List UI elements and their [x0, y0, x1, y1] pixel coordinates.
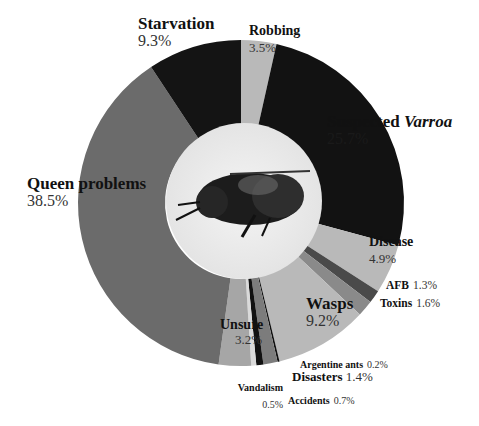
label-starvation: Starvation9.3% — [138, 15, 215, 50]
donut-chart — [0, 0, 479, 426]
label-wasps: Wasps9.2% — [306, 295, 353, 330]
bee-photo — [166, 123, 322, 279]
label-unsure: Unsure3.2% — [220, 318, 263, 346]
label-toxins: Toxins 1.6% — [380, 294, 440, 311]
label-queen-problems: Queen problems38.5% — [27, 175, 146, 210]
label-vandalism: Vandalism0.5% — [228, 378, 283, 412]
label-afb: AFB 1.3% — [386, 276, 437, 293]
label-accidents: Accidents 0.7% — [288, 391, 355, 408]
label-robbing: Robbing3.5% — [249, 22, 300, 56]
label-disasters: Disasters 1.4% — [292, 370, 373, 384]
label-suspected-varroa: Suspected Varroa25.7% — [327, 113, 452, 148]
label-disease: Disease4.9% — [369, 233, 413, 267]
